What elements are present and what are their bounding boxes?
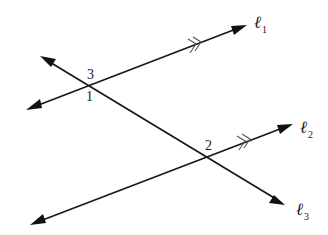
line-label-l2: ℓ 2 xyxy=(300,118,313,140)
arrowhead-l1-right xyxy=(231,25,247,35)
svg-text:ℓ: ℓ xyxy=(296,200,303,219)
svg-text:3: 3 xyxy=(304,211,309,222)
parallel-mark-l2 xyxy=(237,134,250,150)
arrowhead-l2-right xyxy=(277,124,293,134)
arrowhead-l1-left xyxy=(26,99,42,110)
line-label-l3: ℓ 3 xyxy=(296,200,309,222)
angle-label-1: 1 xyxy=(86,89,93,104)
line-l2 xyxy=(30,124,293,225)
svg-text:1: 1 xyxy=(262,24,267,35)
line-l3-transversal xyxy=(40,56,285,205)
angle-label-3: 3 xyxy=(87,67,94,82)
parallel-lines-diagram: 3 1 2 ℓ 1 ℓ 2 ℓ 3 xyxy=(0,0,328,235)
svg-text:ℓ: ℓ xyxy=(254,13,261,32)
svg-text:2: 2 xyxy=(308,129,313,140)
line-label-l1: ℓ 1 xyxy=(254,13,267,35)
arrowhead-l2-left xyxy=(30,214,46,225)
angle-label-2: 2 xyxy=(205,138,212,153)
svg-text:ℓ: ℓ xyxy=(300,118,307,137)
